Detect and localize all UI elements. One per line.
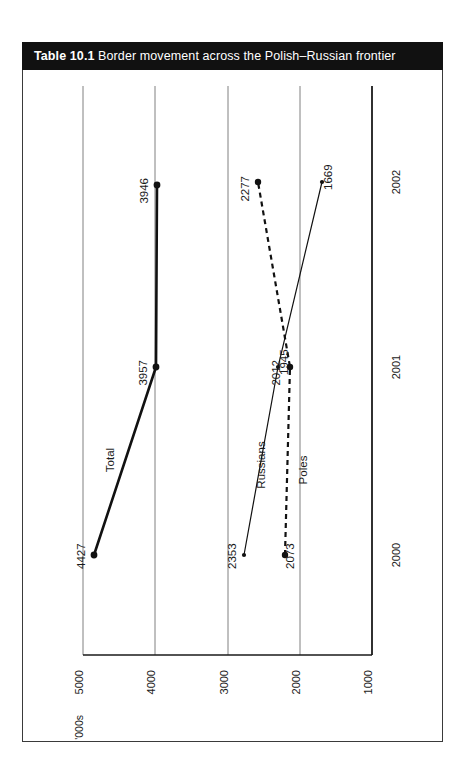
value-label-poles-2002: 1669 [322,164,334,190]
point-total-2002 [154,182,161,189]
gridlines [83,86,300,655]
series-label-total: Total [104,448,116,472]
data-value-labels: 4427 3957 3946 2353 1945 1669 2073 2012 … [75,164,334,569]
year-label-2000: 2000 [390,543,402,567]
page-title: Border movement across the Polish–Russia… [98,49,396,63]
value-label-poles-2000: 2353 [226,543,238,569]
category-tick-labels: 2000 2001 2002 [390,170,402,567]
table-number: Table 10.1 [34,49,95,63]
series-total [91,182,161,559]
tick-label-1000: 1000 [362,670,374,694]
line-chart-svg: 5000 4000 3000 2000 1000 '000s 2000 2001… [22,70,443,742]
point-russians-2002 [255,179,261,185]
tick-label-3000: 3000 [218,670,230,694]
value-label-total-2001: 3957 [137,360,149,386]
tick-label-5000: 5000 [73,670,85,694]
chart-plot-area: 5000 4000 3000 2000 1000 '000s 2000 2001… [22,70,443,742]
point-total-2000 [91,552,98,559]
value-label-russians-2002: 2277 [239,176,251,202]
point-poles-2000 [242,553,246,557]
year-label-2002: 2002 [390,170,402,194]
tick-label-2000: 2000 [290,670,302,694]
point-total-2001 [153,364,160,371]
value-label-russians-2001: 2012 [270,360,282,386]
value-label-russians-2000: 2073 [284,543,296,569]
tick-label-4000: 4000 [145,670,157,694]
figure-title-bar: Table 10.1 Border movement across the Po… [22,42,443,70]
year-label-2001: 2001 [390,355,402,379]
series-label-russians: Russians [255,441,267,489]
figure-page: Table 10.1 Border movement across the Po… [0,0,468,783]
value-label-total-2002: 3946 [138,178,150,204]
series-label-poles: Poles [297,455,309,484]
value-tick-labels: 5000 4000 3000 2000 1000 '000s [73,670,374,740]
value-label-total-2000: 4427 [75,543,87,569]
series-inline-labels: Total Russians Poles [104,441,309,489]
axis-unit-label: '000s [73,715,85,740]
